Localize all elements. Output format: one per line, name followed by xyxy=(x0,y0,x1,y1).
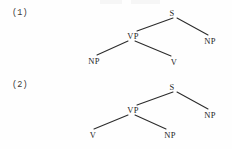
node-np-bottom: NP xyxy=(164,130,175,140)
edge-vp-to-v xyxy=(135,41,171,56)
node-v: V xyxy=(90,130,97,140)
node-s: S xyxy=(169,82,174,92)
figure-1-tree: S VP NP NP V xyxy=(0,0,232,75)
node-s: S xyxy=(169,8,174,18)
node-vp: VP xyxy=(127,31,138,41)
edge-s-to-np-right xyxy=(177,18,208,35)
node-v: V xyxy=(171,57,178,67)
diagram-canvas: (1) S VP NP NP V (2) xyxy=(0,0,232,149)
edge-vp-to-np-left xyxy=(97,41,128,55)
figure-2: (2) S VP NP V NP xyxy=(0,74,232,149)
edge-s-to-vp xyxy=(137,18,173,31)
node-np-right: NP xyxy=(204,110,215,120)
figure-2-tree: S VP NP V NP xyxy=(0,74,232,149)
node-vp: VP xyxy=(127,105,138,115)
edge-s-to-np-right xyxy=(177,92,208,109)
edge-vp-to-v xyxy=(94,115,128,129)
edge-vp-to-np-bottom xyxy=(135,115,166,129)
edge-s-to-vp xyxy=(137,92,173,105)
figure-1: (1) S VP NP NP V xyxy=(0,0,232,74)
node-np-left: NP xyxy=(88,56,99,66)
node-np-right: NP xyxy=(204,36,215,46)
